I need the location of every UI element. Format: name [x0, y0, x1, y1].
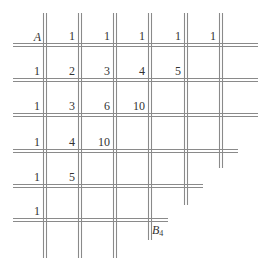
grid-value-r2-c0: 1 [16, 100, 40, 112]
grid-value-r2-c3: 10 [121, 100, 145, 112]
grid-value-r0-c2: 1 [86, 30, 110, 42]
end-label-subscript: 4 [159, 229, 163, 238]
grid-value-r3-c0: 1 [16, 136, 40, 148]
grid-value-r3-c2: 10 [86, 136, 110, 148]
grid-value-r1-c0: 1 [16, 65, 40, 77]
grid-value-r4-c0: 1 [16, 171, 40, 183]
grid-value-r2-c1: 3 [51, 100, 75, 112]
start-label-A: A [17, 31, 41, 43]
end-label-B4: B4 [152, 224, 176, 240]
grid-value-r1-c1: 2 [51, 65, 75, 77]
grid-value-r0-c3: 1 [121, 30, 145, 42]
grid-value-r1-c2: 3 [86, 65, 110, 77]
start-label-text: A [34, 30, 41, 44]
grid-value-r1-c4: 5 [157, 65, 181, 77]
grid-value-r0-c5: 1 [192, 30, 216, 42]
grid-value-r5-c0: 1 [16, 205, 40, 217]
grid-value-r2-c2: 6 [86, 100, 110, 112]
grid-value-r4-c1: 5 [51, 171, 75, 183]
grid-value-r1-c3: 4 [121, 65, 145, 77]
grid-value-r3-c1: 4 [51, 136, 75, 148]
grid-value-r0-c4: 1 [157, 30, 181, 42]
grid-value-r0-c1: 1 [51, 30, 75, 42]
